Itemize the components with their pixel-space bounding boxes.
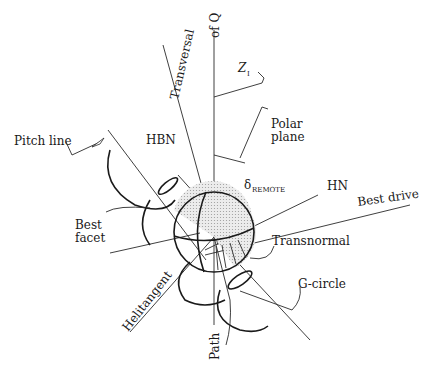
helix-curve-bottom bbox=[218, 290, 269, 331]
g-circle-leader bbox=[240, 287, 300, 310]
best-facet-line bbox=[110, 233, 200, 253]
label-z-sub: I bbox=[247, 70, 250, 78]
helix-curve-upper-left bbox=[108, 150, 175, 209]
label-g-circle: G-circle bbox=[298, 277, 346, 291]
label-best-facet-2: facet bbox=[75, 231, 105, 245]
polar-plane-leader bbox=[240, 107, 268, 158]
sphere bbox=[174, 181, 256, 272]
transnormal-leader bbox=[250, 246, 274, 259]
label-delta: δ bbox=[244, 178, 251, 192]
label-z: Z bbox=[237, 61, 247, 75]
helix-loop-upper bbox=[156, 175, 180, 197]
best-facet-leader bbox=[106, 207, 150, 212]
helix-loop-lower bbox=[226, 268, 255, 292]
label-polar-plane-2: plane bbox=[271, 130, 305, 144]
pitch-line-arrow bbox=[92, 138, 104, 147]
label-best-drive: Best drive bbox=[356, 186, 419, 208]
label-of-q: of Q bbox=[208, 13, 222, 38]
label-transversal: Transversal bbox=[167, 28, 197, 101]
label-pitch-line: Pitch line bbox=[14, 134, 72, 148]
label-polar-plane-1: Polar bbox=[271, 117, 303, 131]
label-transnormal: Transnormal bbox=[272, 234, 350, 248]
label-hbn: HBN bbox=[146, 133, 176, 147]
label-helitangent: Helitangent bbox=[119, 268, 175, 334]
z-leader bbox=[214, 72, 264, 97]
label-path: Path bbox=[208, 332, 222, 360]
axis-diagram: of Q Transversal Z I Polar plane Pitch l… bbox=[0, 0, 425, 370]
label-best-facet-1: Best bbox=[75, 218, 102, 232]
label-hn: HN bbox=[327, 179, 348, 193]
label-delta-sub: REMOTE bbox=[252, 186, 285, 194]
